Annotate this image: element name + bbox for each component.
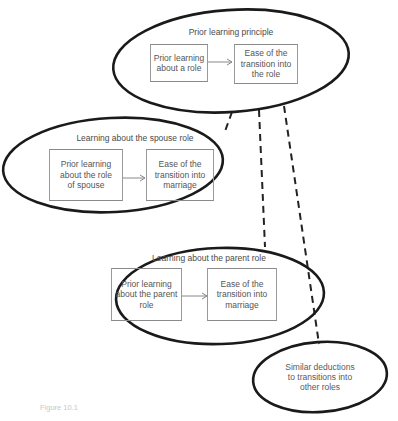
parent-node-cause-text: Prior learning about the parent role xyxy=(116,279,178,311)
parent-node-cause-box: Prior learning about the parent role xyxy=(111,268,182,321)
top-node-cause-box: Prior learning about a role xyxy=(150,44,208,82)
connector-other xyxy=(284,106,319,344)
top-node-effect-text: Ease of the transition into the role xyxy=(237,48,295,80)
top-node-cause-text: Prior learning about a role xyxy=(153,53,205,74)
top-node-effect-box: Ease of the transition into the role xyxy=(234,44,298,84)
other-node-text: Similar deductions to transitions into o… xyxy=(282,362,358,392)
connector-spouse xyxy=(224,112,232,134)
top-node-title: Prior learning principle xyxy=(176,27,286,37)
connector-parent xyxy=(259,110,265,247)
spouse-node-effect-text: Ease of the transition into marriage xyxy=(150,159,210,191)
figure-caption: Figure 10.1 xyxy=(40,403,78,412)
spouse-node-effect-box: Ease of the transition into marriage xyxy=(146,149,214,201)
spouse-node-cause-box: Prior learning about the role of spouse xyxy=(49,149,123,201)
spouse-node-title: Learning about the spouse role xyxy=(70,133,200,143)
parent-node-effect-text: Ease of the transition into marriage xyxy=(211,279,273,311)
parent-node-effect-box: Ease of the transition into marriage xyxy=(207,268,277,321)
spouse-node-cause-text: Prior learning about the role of spouse xyxy=(56,159,116,191)
parent-node-title: Learning about the parent role xyxy=(139,253,279,263)
